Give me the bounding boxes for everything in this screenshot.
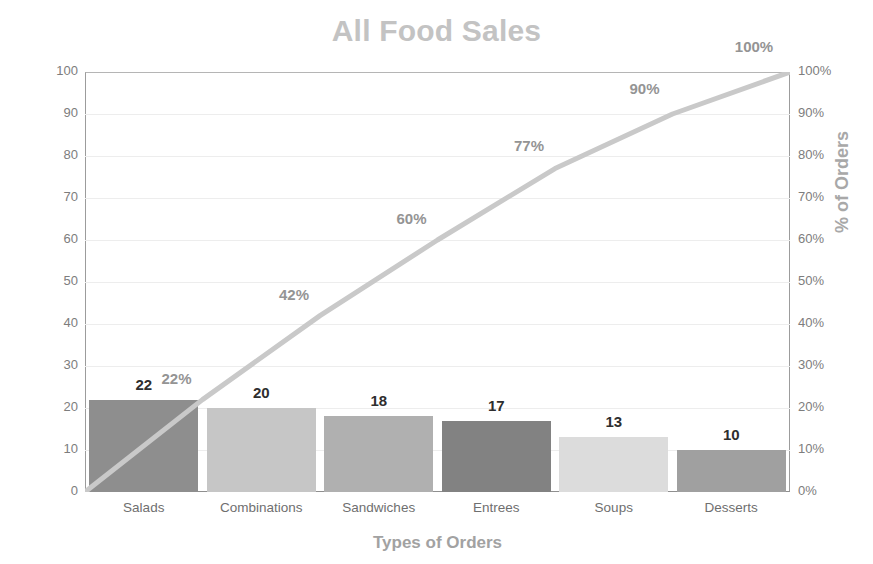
y-axis-left-tick-label: 100 — [38, 63, 78, 78]
y-axis-left-tick-label: 40 — [38, 315, 78, 330]
bar-value-label: 20 — [207, 384, 316, 401]
cumulative-percent-label: 42% — [270, 286, 318, 303]
y-axis-right-tick-label: 80% — [798, 147, 846, 162]
cumulative-percent-label: 100% — [730, 38, 778, 55]
plot-area: 222018171310 22%42%60%77%90%100% — [85, 72, 790, 492]
cumulative-percent-label: 22% — [153, 370, 201, 387]
y-axis-right-tick-label: 50% — [798, 273, 846, 288]
bar[interactable] — [559, 437, 668, 492]
y-axis-left-ticks: 0102030405060708090100 — [36, 72, 78, 492]
bar[interactable] — [677, 450, 786, 492]
y-axis-right-tick-label: 40% — [798, 315, 846, 330]
y-axis-left-tick-label: 90 — [38, 105, 78, 120]
bar[interactable] — [207, 408, 316, 492]
x-axis-tick-label: Desserts — [673, 500, 791, 515]
y-axis-left-tick-label: 20 — [38, 399, 78, 414]
y-axis-right-tick-label: 20% — [798, 399, 846, 414]
y-axis-right-tick-label: 0% — [798, 483, 846, 498]
y-axis-right-tick-label: 70% — [798, 189, 846, 204]
bar-value-label: 10 — [677, 426, 786, 443]
bar[interactable] — [89, 400, 198, 492]
bar[interactable] — [324, 416, 433, 492]
bar-value-label: 18 — [324, 392, 433, 409]
x-axis-tick-label: Soups — [555, 500, 673, 515]
cumulative-percent-label: 90% — [621, 80, 669, 97]
y-axis-left-tick-label: 60 — [38, 231, 78, 246]
y-axis-left-tick-label: 70 — [38, 189, 78, 204]
bar-value-label: 17 — [442, 397, 551, 414]
y-axis-right-title: % of Orders — [852, 0, 873, 182]
y-axis-right-tick-label: 60% — [798, 231, 846, 246]
y-axis-right-tick-label: 30% — [798, 357, 846, 372]
y-axis-left-tick-label: 30 — [38, 357, 78, 372]
y-axis-left-tick-label: 10 — [38, 441, 78, 456]
bar[interactable] — [442, 421, 551, 492]
y-axis-right-tick-label: 100% — [798, 63, 846, 78]
cumulative-percent-label: 77% — [505, 137, 553, 154]
y-axis-left-tick-label: 0 — [38, 483, 78, 498]
bar-value-label: 13 — [559, 413, 668, 430]
x-axis-tick-label: Salads — [85, 500, 203, 515]
x-axis-tick-label: Sandwiches — [320, 500, 438, 515]
y-axis-left-tick-label: 80 — [38, 147, 78, 162]
y-axis-left-tick-label: 50 — [38, 273, 78, 288]
cumulative-percent-label: 60% — [388, 210, 436, 227]
y-axis-right-ticks: 0%10%20%30%40%50%60%70%80%90%100% — [798, 72, 848, 492]
y-axis-right-tick-label: 90% — [798, 105, 846, 120]
x-axis-tick-label: Entrees — [438, 500, 556, 515]
x-axis-tick-label: Combinations — [203, 500, 321, 515]
bars-layer: 222018171310 — [85, 72, 790, 492]
x-axis-title: Types of Orders — [85, 533, 790, 553]
pareto-chart: All Food Sales Frequency of Orders % of … — [0, 0, 873, 564]
y-axis-right-tick-label: 10% — [798, 441, 846, 456]
